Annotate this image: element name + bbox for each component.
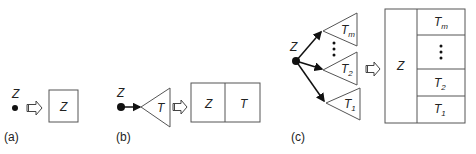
box-label-z: Z <box>59 100 68 114</box>
caption-b: (b) <box>116 130 131 144</box>
box-cell-z: Z <box>204 97 213 111</box>
subtree-triangle <box>141 88 170 127</box>
hollow-arrow-icon <box>27 101 42 115</box>
panel-b: Z T Z T (b) <box>116 83 260 144</box>
panel-c: Z Tm T2 T1 Z Tm T2 T1 (c) <box>289 9 465 144</box>
edge-arrow-m <box>296 32 321 61</box>
vertical-ellipsis-icon <box>440 45 443 60</box>
node-label-z: Z <box>11 87 20 101</box>
diagram-canvas: Z Z (a) Z T Z T (b) Z Tm <box>0 0 476 154</box>
panel-a: Z Z (a) <box>4 87 78 144</box>
box-left-z: Z <box>396 59 405 73</box>
node-label-z: Z <box>116 86 125 100</box>
node-dot <box>12 105 18 111</box>
caption-c: (c) <box>291 130 305 144</box>
vertical-ellipsis-icon <box>333 42 336 57</box>
caption-a: (a) <box>4 130 19 144</box>
hollow-arrow-icon <box>366 62 380 76</box>
hollow-arrow-icon <box>173 100 187 114</box>
node-label-z: Z <box>289 40 298 54</box>
edge-arrow-1 <box>296 61 324 101</box>
